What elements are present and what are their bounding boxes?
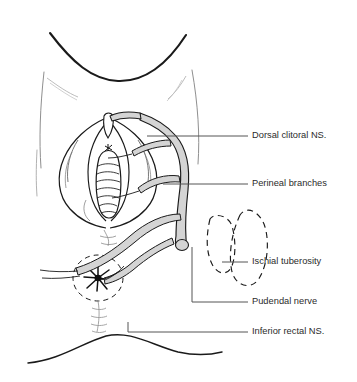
label-inferior-rectal-ns: Inferior rectal NS. xyxy=(252,326,324,336)
left-thigh-contour xyxy=(40,72,44,168)
labial-fold-left-3 xyxy=(84,200,90,221)
pudendal-nerve-tip xyxy=(176,240,189,251)
label-ischial-tuberosity: Ischial tuberosity xyxy=(252,256,322,266)
perineal-body xyxy=(100,230,117,246)
labial-fold-left-2 xyxy=(65,152,72,188)
left-thigh-contour-secondary xyxy=(36,150,37,196)
perineal-branch-upper xyxy=(132,140,171,156)
left-groin-crease-2 xyxy=(50,83,77,100)
label-text-group: Dorsal clitoral NS. Perineal branches Is… xyxy=(252,130,327,336)
natal-cleft xyxy=(91,301,107,333)
dorsal-clitoral-nerve xyxy=(110,112,141,121)
vaginal-introitus xyxy=(96,151,121,219)
label-pudendal-nerve: Pudendal nerve xyxy=(252,296,317,306)
ischial-tuberosity-outline xyxy=(207,210,267,285)
perineum-nerve-diagram: Dorsal clitoral NS. Perineal branches Is… xyxy=(0,0,357,382)
label-perineal-branches: Perineal branches xyxy=(252,178,327,188)
right-groin-crease xyxy=(168,76,186,99)
left-groin-crease xyxy=(47,78,78,97)
leader-pudendal-nerve xyxy=(192,247,248,302)
leader-inferior-rectal-ns xyxy=(128,322,248,332)
mons-pubis-curve xyxy=(50,33,186,81)
buttock-crease-curve xyxy=(28,335,222,363)
labial-fold-left-1 xyxy=(67,140,78,182)
label-dorsal-clitoral-ns: Dorsal clitoral NS. xyxy=(252,130,326,140)
right-thigh-contour xyxy=(192,70,199,164)
